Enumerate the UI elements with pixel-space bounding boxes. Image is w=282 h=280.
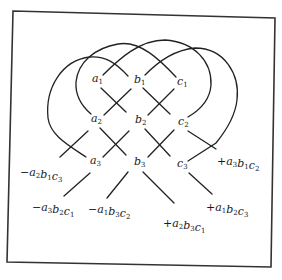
element-b1: b1 (134, 73, 146, 87)
product-term: −a3b2c1 (32, 201, 74, 219)
product-term: −a2b1c3 (20, 166, 62, 184)
matrix-elements: a1 b1 c1 a2 b2 c2 a3 b3 c3 (90, 72, 189, 171)
determinant-diagram: a1 b1 c1 a2 b2 c2 a3 b3 c3 −a2b1c3−a3b2c… (0, 0, 282, 280)
arc-b1-a3 (48, 57, 128, 157)
element-b3: b3 (134, 155, 146, 169)
frame (7, 11, 275, 267)
element-c1: c1 (177, 75, 188, 89)
element-c2: c2 (178, 115, 189, 129)
element-a3: a3 (90, 154, 101, 168)
element-b2: b2 (135, 113, 147, 127)
product-term: −a1b3c2 (88, 203, 130, 221)
product-term: +a3b1c2 (217, 155, 259, 173)
product-term: +a1b2c3 (206, 201, 248, 219)
element-c3: c3 (177, 157, 188, 171)
line-a1b2c3 (101, 88, 212, 194)
product-term: +a2b3c1 (163, 217, 205, 235)
element-a1: a1 (92, 72, 103, 86)
element-a2: a2 (91, 112, 102, 126)
